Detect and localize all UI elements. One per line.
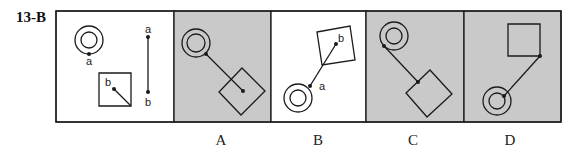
point-dot bbox=[112, 87, 116, 91]
option-label-b[interactable]: B bbox=[308, 132, 328, 149]
panel-a[interactable] bbox=[174, 11, 271, 122]
point-dot bbox=[416, 80, 420, 84]
point-dot bbox=[382, 44, 386, 48]
point-dot bbox=[146, 35, 150, 39]
panel-c[interactable] bbox=[366, 11, 464, 122]
panels bbox=[56, 11, 561, 122]
point-label: b bbox=[338, 32, 344, 44]
point-label: a bbox=[319, 80, 326, 92]
point-label: b bbox=[145, 96, 151, 108]
panel-b[interactable] bbox=[271, 11, 366, 122]
figure-diagram: ababab bbox=[0, 0, 585, 155]
point-dot bbox=[538, 54, 542, 58]
point-label: b bbox=[105, 76, 111, 88]
point-dot bbox=[146, 90, 150, 94]
panel-d[interactable] bbox=[464, 11, 561, 122]
point-label: a bbox=[86, 55, 93, 67]
point-dot bbox=[502, 94, 506, 98]
point-label: a bbox=[145, 23, 152, 35]
option-label-a[interactable]: A bbox=[211, 132, 231, 149]
point-dot bbox=[204, 52, 208, 56]
point-dot bbox=[241, 89, 245, 93]
option-label-d[interactable]: D bbox=[500, 132, 520, 149]
point-dot bbox=[308, 84, 312, 88]
option-label-c[interactable]: C bbox=[403, 132, 423, 149]
